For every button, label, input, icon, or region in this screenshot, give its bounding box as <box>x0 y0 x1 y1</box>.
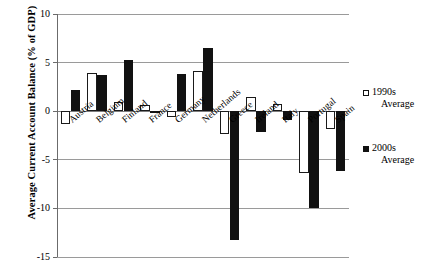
category-label-belgium: Belgium <box>94 96 126 125</box>
x-axis-category-labels: AustriaBelgiumFinlandFranceGermanyNether… <box>0 0 437 271</box>
legend-label-2000s: 2000s Average <box>372 142 414 166</box>
legend-entry-1990s: 1990s Average <box>363 86 437 110</box>
legend-label-1990s: 1990s Average <box>372 86 414 110</box>
legend: 1990s Average 2000s Average <box>363 86 437 110</box>
legend-entry-2000s: 2000s Average <box>363 142 414 166</box>
category-label-spain: Spain <box>333 103 356 125</box>
white-square-icon <box>363 90 369 96</box>
category-label-portugal: Portugal <box>306 96 338 125</box>
bar-chart: Average Current Account Balance (% of GD… <box>0 0 437 271</box>
black-square-icon <box>363 146 369 152</box>
category-label-italy: Italy <box>280 106 300 125</box>
category-label-ireland: Ireland <box>253 99 281 124</box>
category-label-austria: Austria <box>67 99 95 125</box>
category-label-france: France <box>147 100 174 125</box>
